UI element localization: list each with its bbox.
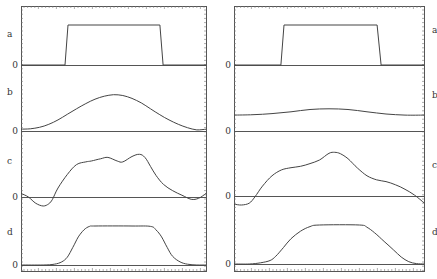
zero-tick-label: 0 [12,192,18,202]
subplot-label: c [7,156,12,166]
zero-tick-label: 0 [225,60,231,70]
chart-figure: 0a0b0c0d 0a0b0c0d [0,0,437,279]
subplot-c: 0c [7,154,206,206]
curve-b [21,95,206,130]
plot-frame [22,7,207,272]
curve-c [21,154,206,206]
zero-tick-label: 0 [225,191,231,201]
subplot-label: a [7,29,13,39]
curve-d [21,226,206,265]
subplot-label: d [7,227,13,237]
curve-d [234,225,424,264]
subplot-label: a [432,25,437,35]
subplot-label: d [432,227,437,237]
right-panel: 0a0b0c0d [225,6,437,272]
curve-b [234,109,424,115]
curve-c [234,152,424,205]
left-panel: 0a0b0c0d [7,6,207,272]
subplot-c: 0c [225,152,437,205]
subplot-a: 0a [7,25,206,70]
subplot-b: 0b [7,87,206,136]
plot-frame [235,7,425,272]
curve-a [21,25,206,65]
subplot-b: 0b [225,90,437,136]
subplot-label: c [432,160,437,170]
subplot-d: 0d [7,226,206,270]
subplot-a: 0a [225,25,437,70]
zero-tick-label: 0 [12,260,18,270]
zero-tick-label: 0 [225,126,231,136]
subplot-d: 0d [225,225,437,269]
zero-tick-label: 0 [12,126,18,136]
subplot-label: b [7,87,13,97]
zero-tick-label: 0 [12,60,18,70]
zero-tick-label: 0 [225,259,231,269]
curve-a [234,25,424,65]
subplot-label: b [432,90,437,100]
